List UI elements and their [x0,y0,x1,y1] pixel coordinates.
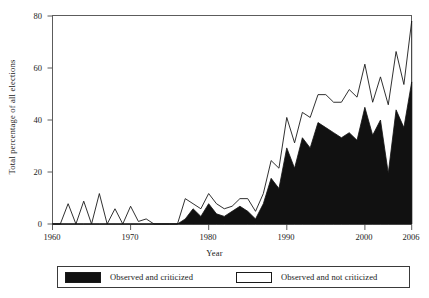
legend-swatch-empty-icon [236,272,272,283]
y-tick-label-20: 20 [16,167,42,177]
legend-label-observed-and-not-criticized: Observed and not criticized [281,272,377,282]
legend-item-observed-and-not-criticized[interactable]: Observed and not criticized [236,267,377,287]
x-tick-label-2000: 2000 [344,232,384,242]
figure: Total percentage of all elections Year 0… [0,0,429,298]
y-tick-label-0: 0 [16,219,42,229]
x-tick-label-1960: 1960 [32,232,72,242]
x-axis-title: Year [0,248,429,258]
y-tick-label-60: 60 [16,63,42,73]
legend-item-observed-and-criticized[interactable]: Observed and criticized [65,267,193,287]
x-tick-label-2006: 2006 [391,232,429,242]
legend: Observed and criticized Observed and not… [57,266,410,288]
x-tick-label-1980: 1980 [188,232,228,242]
y-tick-label-40: 40 [16,115,42,125]
legend-swatch-filled-icon [65,272,101,283]
x-tick-label-1990: 1990 [266,232,306,242]
y-tick-label-80: 80 [16,11,42,21]
legend-label-observed-and-criticized: Observed and criticized [110,272,193,282]
x-tick-label-1970: 1970 [110,232,150,242]
x-axis-ticks [53,225,412,231]
y-axis-ticks [48,16,53,224]
